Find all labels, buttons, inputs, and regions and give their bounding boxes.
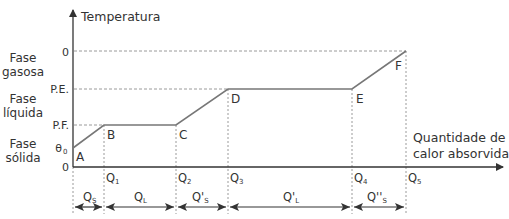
vertical-guides — [73, 51, 406, 214]
y-label-origin: 0 — [62, 161, 69, 174]
y-label-theta-sub: 0 — [63, 148, 67, 156]
point-labels: A B C D E F — [76, 59, 402, 164]
phase-solid-line1: Fase — [10, 137, 37, 151]
y-axis-title: Temperatura — [80, 9, 160, 24]
x-tick-labels: Q1 Q2 Q3 Q4 Q5 — [106, 171, 422, 186]
point-e-label: E — [356, 92, 364, 106]
horizontal-guides — [74, 51, 406, 125]
y-label-melting-point: P.F. — [53, 119, 69, 132]
y-tick-labels: 0 P.E. P.F. θ 0 0 — [50, 46, 69, 174]
point-c-label: C — [179, 128, 187, 142]
phase-gas-line2: gasosa — [2, 65, 44, 79]
y-label-theta: θ — [55, 142, 62, 155]
x-label-q5: Q5 — [408, 171, 422, 186]
interval-label-ql: QL — [134, 190, 147, 205]
x-label-q2: Q2 — [178, 171, 192, 186]
y-label-top: 0 — [62, 46, 69, 59]
point-f-label: F — [395, 59, 402, 73]
phase-labels: Fase gasosa Fase líquida Fase sólida — [2, 51, 44, 165]
phase-solid-line2: sólida — [5, 151, 40, 165]
theta-symbol: θ — [55, 142, 62, 155]
heating-curve-diagram: Temperatura Quantidade de calor absorvid… — [0, 0, 509, 219]
x-axis-title-line1: Quantidade de — [413, 130, 506, 145]
point-a-label: A — [76, 150, 85, 164]
point-b-label: B — [107, 128, 115, 142]
phase-liquid-line2: líquida — [3, 106, 43, 120]
point-d-label: D — [231, 92, 240, 106]
x-label-q4: Q4 — [354, 171, 368, 186]
x-axis-title-line2: calor absorvida — [413, 146, 509, 161]
interval-label-q-prime-l: Q'L — [283, 190, 299, 205]
y-label-boiling-point: P.E. — [50, 83, 69, 96]
interval-label-q-double-prime-s: Q''S — [367, 190, 387, 205]
interval-label-qs: QS — [83, 190, 97, 205]
interval-labels: QS QL Q'S Q'L Q''S — [83, 190, 387, 205]
interval-label-q-prime-s: Q'S — [192, 190, 209, 205]
x-label-q3: Q3 — [230, 171, 244, 186]
phase-liquid-line1: Fase — [10, 92, 37, 106]
x-label-q1: Q1 — [106, 171, 120, 186]
phase-gas-line1: Fase — [10, 51, 37, 65]
